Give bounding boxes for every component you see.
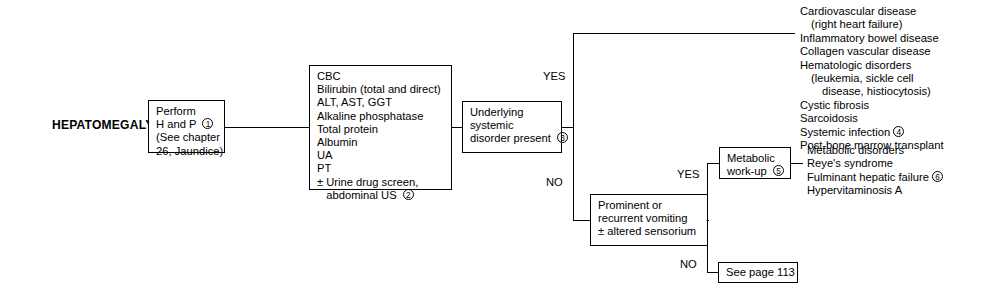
outcome-list-item: disease, histiocytosis) — [800, 85, 985, 98]
trunk-systemic-decision — [573, 33, 574, 221]
connector-vomiting-no-to-seepage — [707, 272, 718, 273]
box-text-line: (See chapter — [156, 131, 218, 144]
outcome-list-item: Systemic infection 4 — [800, 126, 985, 139]
outcome-list-item: Cystic fibrosis — [800, 99, 985, 112]
outcome-list-item: (leukemia, sickle cell — [800, 72, 985, 85]
outcome-list-item: Hematologic disorders — [800, 59, 985, 72]
box-underlying-systemic-disorder[interactable]: Underlyingsystemicdisorder present 3 — [462, 101, 562, 153]
box-text-line: ± Urine drug screen, — [317, 176, 445, 189]
box-see-page-reference[interactable]: See page 113 — [718, 262, 798, 283]
outcome-list-item: Metabolic disorders — [807, 144, 987, 157]
connector-vomiting-to-trunk — [708, 220, 709, 221]
circled-number-4: 4 — [893, 126, 904, 137]
outcome-list-item: Sarcoidosis — [800, 112, 985, 125]
circled-number-3: 3 — [557, 132, 568, 143]
box-text-line: H and P 1 — [156, 118, 218, 131]
box-text-line: 26, Jaundice) — [156, 145, 218, 158]
outcome-list-item: Reye's syndrome — [807, 157, 987, 170]
box-perform-history-physical[interactable]: PerformH and P 1(See chapter26, Jaundice… — [148, 100, 225, 153]
box-text-line: work-up 5 — [727, 165, 784, 178]
box-text-line: Metabolic — [727, 152, 784, 165]
box-text-line: Prominent or — [598, 199, 701, 212]
box-text-line: Underlying — [470, 106, 555, 119]
branch-label-systemic-yes: YES — [543, 70, 565, 82]
circled-number-2: 2 — [403, 189, 414, 200]
connector-metabolic-to-list — [791, 163, 803, 164]
outcome-list-item: Hypervitaminosis A — [807, 184, 987, 197]
box-text-line: PT — [317, 162, 445, 175]
box-text-line: ALT, AST, GGT — [317, 96, 445, 109]
box-text-line: UA — [317, 149, 445, 162]
box-text-line: systemic — [470, 119, 555, 132]
flowchart-canvas: HEPATOMEGALY PerformH and P 1(See chapte… — [0, 0, 987, 300]
box-text-line: Perform — [156, 105, 218, 118]
box-text-line: abdominal US 2 — [317, 189, 445, 202]
box-text-line: Bilirubin (total and direct) — [317, 83, 445, 96]
connector-systemic-yes-to-list — [573, 33, 795, 34]
box-text-line: recurrent vomiting — [598, 212, 701, 225]
branch-label-vomiting-no: NO — [680, 258, 697, 270]
box-metabolic-workup[interactable]: Metabolicwork-up 5 — [719, 147, 791, 179]
outcome-list-item: Collagen vascular disease — [800, 45, 985, 58]
box-text-line: disorder present 3 — [470, 132, 555, 145]
outcome-list-item: Inflammatory bowel disease — [800, 32, 985, 45]
box-text-line: Alkaline phosphatase — [317, 110, 445, 123]
outcome-list-item: (right heart failure) — [800, 18, 985, 31]
circled-number-5: 5 — [773, 165, 784, 176]
outcome-list-systemic-diseases: Cardiovascular disease(right heart failu… — [800, 5, 985, 152]
circled-number-6: 6 — [932, 171, 943, 182]
root-label-hepatomegaly: HEPATOMEGALY — [52, 118, 153, 132]
box-text-line: Total protein — [317, 123, 445, 136]
box-prominent-recurrent-vomiting[interactable]: Prominent orrecurrent vomiting± altered … — [590, 194, 708, 246]
circled-number-1: 1 — [202, 118, 213, 129]
box-laboratory-studies[interactable]: CBCBilirubin (total and direct)ALT, AST,… — [309, 65, 452, 190]
box-text-line: ± altered sensorium — [598, 225, 701, 238]
branch-label-vomiting-yes: YES — [677, 168, 699, 180]
box-text-line: See page 113 — [726, 266, 791, 279]
outcome-list-item: Cardiovascular disease — [800, 5, 985, 18]
box-text-line: Albumin — [317, 136, 445, 149]
connector-vomiting-yes-to-metabolic — [707, 163, 719, 164]
outcome-list-item: Fulminant hepatic failure 6 — [807, 171, 987, 184]
branch-label-systemic-no: NO — [546, 176, 563, 188]
connector-labs-to-systemic — [452, 127, 462, 128]
connector-systemic-no-to-vomiting — [573, 220, 590, 221]
connector-perform-to-labs — [225, 127, 309, 128]
outcome-list-metabolic-disorders: Metabolic disordersReye's syndromeFulmin… — [807, 144, 987, 198]
box-text-line: CBC — [317, 70, 445, 83]
